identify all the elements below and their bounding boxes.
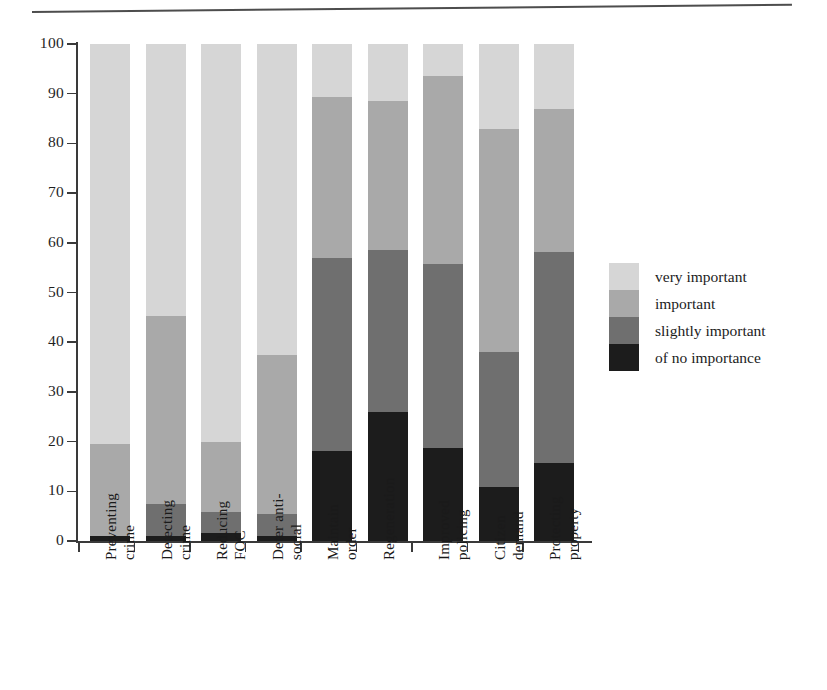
y-axis-tick	[67, 441, 77, 443]
x-axis-label-line: policing	[454, 509, 471, 560]
bar-segment	[423, 44, 463, 76]
bar-segment	[368, 250, 408, 412]
x-axis-label-line: Preventing	[103, 493, 120, 560]
bar-segment	[146, 316, 186, 504]
x-axis-label-line: FOC	[232, 530, 249, 560]
bar-segment	[257, 355, 297, 514]
bar-segment	[257, 44, 297, 355]
chart-page: 0102030405060708090100 PreventingcrimeDe…	[0, 0, 827, 690]
y-axis-tick-label: 70	[22, 183, 64, 201]
bar-segment	[479, 44, 519, 129]
bar-8	[479, 44, 519, 541]
bar-segment	[312, 97, 352, 258]
legend-label: slightly important	[655, 317, 766, 344]
bar-segment	[534, 252, 574, 463]
bar-segment	[146, 44, 186, 316]
legend-swatch	[609, 317, 639, 344]
bar-1	[90, 44, 130, 541]
bar-segment	[368, 101, 408, 250]
bar-segment	[90, 44, 130, 444]
bar-3	[201, 44, 241, 541]
y-axis-tick	[67, 242, 77, 244]
y-axis-tick	[67, 491, 77, 493]
y-axis-tick-label: 100	[22, 34, 64, 52]
bar-segment	[423, 76, 463, 263]
legend-label-column: very importantimportantslightly importan…	[655, 263, 766, 371]
y-axis-tick-label: 80	[22, 133, 64, 151]
y-axis-tick	[67, 93, 77, 95]
bar-4	[257, 44, 297, 541]
legend-swatch	[609, 290, 639, 317]
bar-9	[534, 44, 574, 541]
x-axis-label-line: crime	[121, 525, 138, 560]
stacked-bar-chart: 0102030405060708090100 PreventingcrimeDe…	[0, 0, 827, 690]
legend-swatch	[609, 344, 639, 371]
x-axis-tick	[78, 541, 80, 552]
x-axis-label-line: Regeneration	[381, 478, 398, 560]
legend-label: very important	[655, 263, 766, 290]
x-axis-label-line: Protecting	[547, 496, 564, 560]
x-axis-label-line: Deter anti-	[270, 493, 287, 560]
x-axis-tick	[411, 541, 413, 552]
x-axis-label-line: Reducing	[214, 501, 231, 560]
x-axis-label-line: Improved	[436, 500, 453, 560]
y-axis-tick-label: 0	[22, 531, 64, 549]
x-axis-label-line: property	[565, 508, 582, 560]
x-axis-label-line: order	[343, 527, 360, 560]
bar-segment	[368, 44, 408, 101]
bar-2	[146, 44, 186, 541]
bar-5	[312, 44, 352, 541]
bar-7	[423, 44, 463, 541]
legend-swatch-column	[609, 263, 639, 371]
x-axis-label-line: social	[288, 524, 305, 560]
bar-segment	[534, 109, 574, 252]
y-axis-tick-label: 30	[22, 382, 64, 400]
y-axis-tick	[67, 391, 77, 393]
bar-segment	[534, 44, 574, 109]
y-axis-tick	[67, 540, 77, 542]
bar-segment	[312, 44, 352, 97]
bar-segment	[312, 258, 352, 451]
x-axis-label-line: crime	[177, 525, 194, 560]
y-axis-tick-label: 40	[22, 332, 64, 350]
legend-swatch	[609, 263, 639, 290]
y-axis-tick	[67, 43, 77, 45]
bar-segment	[479, 352, 519, 487]
x-axis-label-line: Citizen	[492, 515, 509, 560]
y-axis-tick	[67, 341, 77, 343]
x-axis-label-line: Detecting	[159, 500, 176, 560]
bar-segment	[201, 44, 241, 442]
legend-label: of no importance	[655, 344, 766, 371]
legend-label: important	[655, 290, 766, 317]
y-axis-tick-label: 90	[22, 84, 64, 102]
y-axis-tick-label: 50	[22, 283, 64, 301]
x-axis-label-line: Maintain	[325, 504, 342, 560]
y-axis-tick	[67, 292, 77, 294]
y-axis-tick-label: 60	[22, 233, 64, 251]
y-axis-tick	[67, 192, 77, 194]
bar-segment	[423, 264, 463, 448]
y-axis-tick	[67, 143, 77, 145]
bar-6	[368, 44, 408, 541]
y-axis-tick-label: 10	[22, 481, 64, 499]
bar-segment	[479, 129, 519, 352]
y-axis-tick-label: 20	[22, 432, 64, 450]
x-axis-label-line: demand	[510, 511, 527, 560]
